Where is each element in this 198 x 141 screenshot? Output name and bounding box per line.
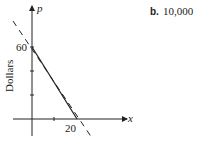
y-axis-label: p <box>36 2 43 14</box>
y-axis-title: Dollars <box>3 60 15 92</box>
demand-graph: p x 60 20 Dollars <box>0 0 198 141</box>
y-tick-label-60: 60 <box>16 41 28 53</box>
answer-text: b.10,000 <box>150 5 193 17</box>
x-tick-label-20: 20 <box>65 122 77 134</box>
answer-value: 10,000 <box>163 5 193 17</box>
answer-label: b. <box>150 6 159 17</box>
solid-segment <box>32 47 77 119</box>
x-axis-label: x <box>127 112 133 124</box>
